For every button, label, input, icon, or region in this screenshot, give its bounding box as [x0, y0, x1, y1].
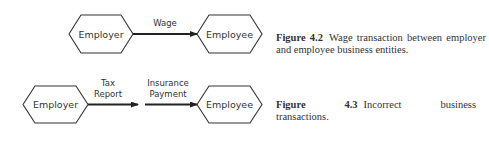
figure-number: Figure 4.3: [276, 99, 358, 110]
figure-4-2-diagram: Employer Wage Employee: [69, 15, 262, 53]
employer-node-4-2: Employer: [69, 15, 133, 53]
employer-node-4-3: Employer: [23, 86, 88, 123]
insurance-payment-label-line2: Payment: [149, 89, 187, 99]
employer-label: Employer: [78, 29, 123, 40]
employee-node-4-3: Employee: [197, 86, 262, 123]
employee-label: Employee: [206, 99, 253, 110]
wage-label: Wage: [153, 18, 177, 28]
figure-4-3-diagram: Employer Tax Report Insurance Payment Em…: [23, 78, 262, 123]
employer-label: Employer: [33, 99, 78, 110]
tax-report-label-line1: Tax: [100, 78, 115, 88]
employee-node-4-2: Employee: [197, 15, 262, 53]
tax-report-label-line2: Report: [94, 89, 123, 99]
figure-number: Figure 4.2: [276, 32, 323, 43]
employee-label: Employee: [206, 29, 253, 40]
figure-4-2-caption: Figure 4.2Wage transaction between emplo…: [276, 32, 486, 56]
figure-4-3-caption: Figure 4.3Incorrect business transaction…: [276, 99, 476, 123]
insurance-payment-label-line1: Insurance: [147, 78, 189, 88]
